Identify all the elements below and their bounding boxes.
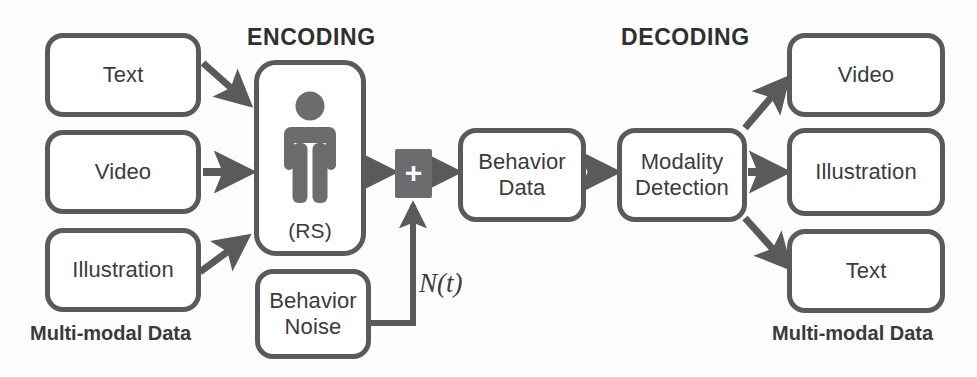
output-node-illustration[interactable]: Illustration	[787, 128, 945, 216]
caption-multimodal-data-left: Multi-modal Data	[30, 322, 191, 345]
plus-icon: +	[405, 158, 423, 188]
arrow-text-to-encoder	[203, 63, 248, 103]
behavior-noise-line1: Behavior	[269, 288, 357, 313]
arrow-modality-to-video	[745, 80, 786, 128]
behavior-noise-node[interactable]: Behavior Noise	[255, 269, 371, 359]
encoding-section-title: ENCODING	[247, 24, 376, 51]
noise-signal-label: N(t)	[419, 268, 463, 299]
summation-node[interactable]: +	[395, 149, 432, 198]
modality-detection-line1: Modality	[641, 149, 724, 174]
output-node-video[interactable]: Video	[787, 33, 945, 117]
modality-detection-node[interactable]: Modality Detection	[617, 128, 747, 222]
encoder-node-human[interactable]: (RS)	[254, 60, 366, 256]
output-node-text[interactable]: Text	[787, 229, 945, 313]
person-icon	[279, 91, 341, 215]
input-node-video[interactable]: Video	[45, 130, 201, 214]
input-node-illustration[interactable]: Illustration	[45, 228, 201, 312]
behavior-data-line1: Behavior	[478, 149, 566, 174]
behavior-data-line2: Data	[499, 175, 546, 200]
arrow-modality-to-text	[745, 218, 788, 266]
behavior-data-node[interactable]: Behavior Data	[458, 128, 586, 222]
modality-detection-label: Modality Detection	[635, 149, 729, 200]
behavior-noise-label: Behavior Noise	[269, 288, 357, 339]
behavior-data-label: Behavior Data	[478, 149, 566, 200]
decoding-section-title: DECODING	[621, 24, 750, 51]
behavior-noise-line2: Noise	[285, 314, 342, 339]
arrow-illustration-to-encoder	[200, 238, 246, 272]
caption-multimodal-data-right: Multi-modal Data	[772, 322, 933, 345]
modality-detection-line2: Detection	[635, 175, 729, 200]
arrow-noise-to-sum	[371, 205, 413, 323]
encoder-sublabel-rs: (RS)	[288, 219, 332, 243]
input-node-text[interactable]: Text	[45, 33, 201, 117]
diagram-canvas: ENCODING DECODING Text Video Illustratio…	[0, 0, 977, 377]
